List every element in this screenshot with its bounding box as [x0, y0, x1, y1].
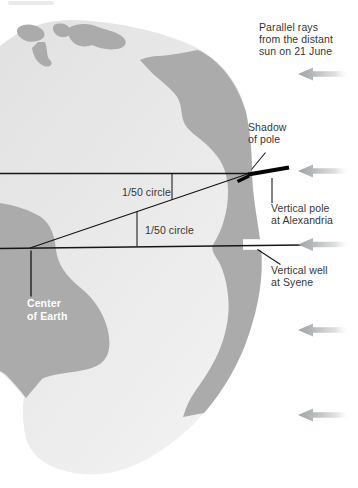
vertical-well-label: Vertical well at Syene — [271, 264, 328, 288]
sun-ray-arrow-icon — [298, 165, 348, 178]
syene-well — [243, 239, 269, 250]
angle-upper-label: 1/50 circle — [122, 186, 171, 198]
angle-lower-label: 1/50 circle — [145, 224, 194, 236]
eratosthenes-diagram: Parallel rays from the distant sun on 21… — [0, 0, 358, 488]
sun-ray-arrow-icon — [298, 238, 348, 251]
parallel-rays-label: Parallel rays from the distant sun on 21… — [259, 21, 333, 57]
page-edge-smudge — [8, 1, 54, 5]
vertical-pole-label: Vertical pole at Alexandria — [271, 202, 333, 226]
sun-ray-arrow-icon — [298, 68, 348, 81]
sun-ray-arrow-icon — [298, 324, 348, 337]
sun-ray-arrow-icon — [298, 409, 348, 422]
center-of-earth-label: Center of Earth — [27, 297, 67, 322]
shadow-of-pole-label: Shadow of pole — [248, 121, 287, 145]
shadow-leader-line — [252, 153, 266, 170]
vertical-pole — [248, 168, 289, 175]
diagram-canvas — [0, 0, 358, 488]
